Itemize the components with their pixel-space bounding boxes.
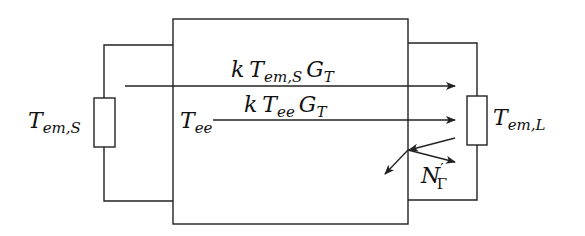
load-circuit [408,43,487,200]
load-resistor [467,96,487,145]
noise-diagram: Tem,S Tem,L Tee kTem,SGT kTeeGT N′Γ [0,0,585,236]
load-temperature-label: Tem,L [493,105,546,134]
source-circuit [94,45,173,201]
reflection-label: N′Γ [420,160,447,193]
upper-arrow-label: kTem,SGT [231,57,335,86]
reflection-arrows [385,138,455,174]
two-port-temperature-label: Tee [180,108,213,137]
source-resistor [94,98,115,147]
source-temperature-label: Tem,S [28,108,81,137]
lower-arrow-label: kTeeGT [244,92,327,121]
